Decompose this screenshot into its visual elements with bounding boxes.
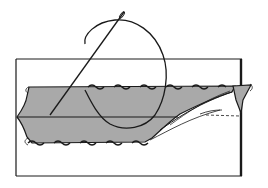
fold-line-dashed xyxy=(206,115,240,116)
fabric-fold-corner xyxy=(233,85,251,113)
edge-curl-left-bottom xyxy=(25,138,28,145)
sewing-illustration xyxy=(0,0,268,188)
